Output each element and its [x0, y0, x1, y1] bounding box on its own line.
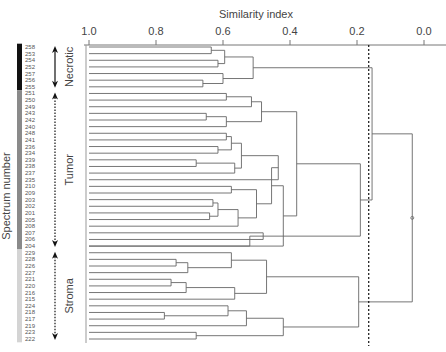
spectrum-label: 255	[25, 84, 36, 90]
spectrum-label: 242	[25, 117, 36, 123]
spectrum-label: 253	[25, 51, 36, 57]
group-bar-stroma	[17, 249, 22, 342]
spectrum-label: 224	[25, 303, 36, 309]
spectrum-label: 258	[25, 44, 36, 50]
spectrum-label: 210	[25, 183, 36, 189]
spectrum-label: 219	[25, 323, 36, 329]
spectrum-label: 227	[25, 270, 36, 276]
spectrum-label: 201	[25, 210, 36, 216]
group-label-necrotic: Necrotic	[63, 46, 75, 87]
y-axis-title: Spectrum number	[0, 152, 12, 240]
spectrum-label: 241	[25, 137, 36, 143]
dendrogram-branches	[89, 47, 414, 339]
spectrum-label: 221	[25, 276, 36, 282]
spectrum-label: 215	[25, 296, 36, 302]
spectrum-label: 206	[25, 236, 36, 242]
spectrum-label: 238	[25, 163, 36, 169]
x-axis-ticks: 1.00.80.60.40.20.0	[81, 25, 431, 45]
spectrum-label: 222	[25, 336, 36, 342]
spectrum-label: 236	[25, 144, 36, 150]
spectrum-label: 252	[25, 64, 36, 70]
spectrum-label: 204	[25, 243, 36, 249]
spectrum-label: 237	[25, 170, 36, 176]
spectrum-label: 248	[25, 130, 36, 136]
spectrum-label: 256	[25, 77, 36, 83]
spectrum-label: 226	[25, 263, 36, 269]
spectrum-label: 228	[25, 256, 36, 262]
spectrum-labels: 2582532542522572562552512502492432422402…	[25, 44, 36, 342]
spectrum-label: 234	[25, 150, 36, 156]
dendrogram-chart: Similarity index 1.00.80.60.40.20.0 Spec…	[0, 0, 446, 352]
spectrum-label: 250	[25, 97, 36, 103]
spectrum-label: 223	[25, 329, 36, 335]
x-tick-label: 0.8	[148, 25, 163, 37]
spectrum-label: 235	[25, 177, 36, 183]
group-color-bar	[17, 44, 22, 343]
spectrum-label: 240	[25, 124, 36, 130]
spectrum-label: 217	[25, 316, 36, 322]
arrow-down-icon	[52, 240, 58, 247]
x-tick-label: 0.4	[282, 25, 297, 37]
arrow-down-icon	[52, 333, 58, 340]
spectrum-label: 218	[25, 309, 36, 315]
spectrum-label: 220	[25, 283, 36, 289]
spectrum-label: 209	[25, 190, 36, 196]
x-axis-title: Similarity index	[219, 8, 293, 20]
x-tick-label: 1.0	[81, 25, 96, 37]
spectrum-label: 229	[25, 250, 36, 256]
spectrum-label: 243	[25, 110, 36, 116]
spectrum-label: 239	[25, 157, 36, 163]
spectrum-label: 203	[25, 197, 36, 203]
spectrum-label: 216	[25, 290, 36, 296]
x-tick-label: 0.0	[416, 25, 431, 37]
spectrum-label: 249	[25, 104, 36, 110]
spectrum-label: 254	[25, 57, 36, 63]
group-label-tumor: Tumor	[63, 154, 75, 186]
spectrum-label: 205	[25, 217, 36, 223]
group-arrows: NecroticTumorStroma	[52, 46, 75, 340]
spectrum-label: 257	[25, 71, 36, 77]
group-bar-necrotic	[17, 44, 22, 90]
x-tick-label: 0.2	[349, 25, 364, 37]
group-label-stroma: Stroma	[63, 277, 75, 313]
spectrum-label: 202	[25, 203, 36, 209]
spectrum-label: 207	[25, 230, 36, 236]
spectrum-label: 208	[25, 223, 36, 229]
x-tick-label: 0.6	[215, 25, 230, 37]
spectrum-label: 251	[25, 90, 36, 96]
group-bar-tumor	[17, 90, 22, 249]
